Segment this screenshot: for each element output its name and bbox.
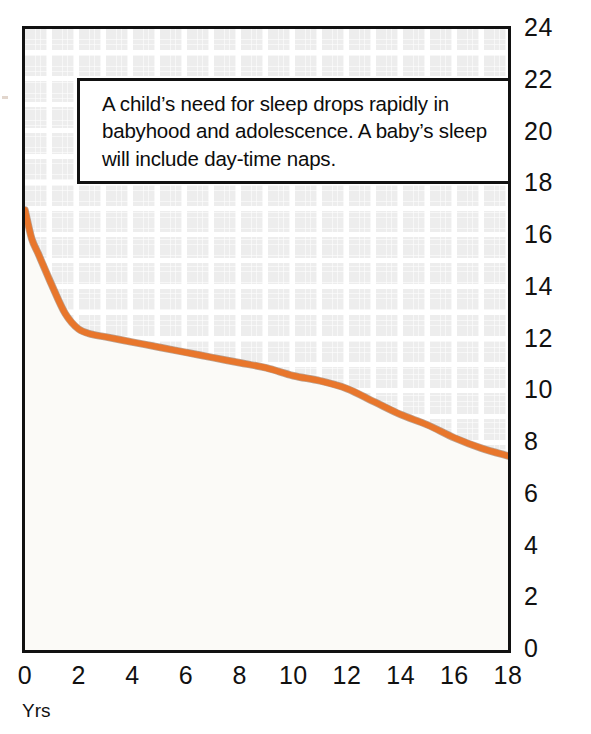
x-tick-16: 16 <box>434 661 474 690</box>
y-tick-14: 14 <box>524 272 580 301</box>
y-tick-4: 4 <box>524 531 580 560</box>
y-tick-2: 2 <box>524 582 580 611</box>
y-tick-10: 10 <box>524 375 580 404</box>
x-tick-12: 12 <box>327 661 367 690</box>
y-tick-20: 20 <box>524 117 580 146</box>
x-tick-4: 4 <box>112 661 152 690</box>
y-tick-8: 8 <box>524 427 580 456</box>
plot-area: A child’s need for sleep drops rapidly i… <box>22 26 511 653</box>
x-axis-title: Yrs <box>22 700 51 722</box>
x-tick-6: 6 <box>166 661 206 690</box>
x-tick-0: 0 <box>5 661 45 690</box>
x-tick-10: 10 <box>273 661 313 690</box>
x-tick-8: 8 <box>220 661 260 690</box>
y-tick-16: 16 <box>524 220 580 249</box>
scan-artifact-speck <box>2 96 8 99</box>
y-tick-24: 24 <box>524 13 580 42</box>
x-tick-2: 2 <box>59 661 99 690</box>
x-tick-14: 14 <box>381 661 421 690</box>
y-tick-0: 0 <box>524 634 580 663</box>
sleep-chart-figure: A child’s need for sleep drops rapidly i… <box>0 0 591 734</box>
x-tick-18: 18 <box>488 661 528 690</box>
annotation-text: A child’s need for sleep drops rapidly i… <box>80 90 511 172</box>
y-tick-6: 6 <box>524 479 580 508</box>
annotation-callout-box: A child’s need for sleep drops rapidly i… <box>77 78 511 184</box>
y-tick-22: 22 <box>524 65 580 94</box>
y-tick-18: 18 <box>524 168 580 197</box>
y-tick-12: 12 <box>524 324 580 353</box>
